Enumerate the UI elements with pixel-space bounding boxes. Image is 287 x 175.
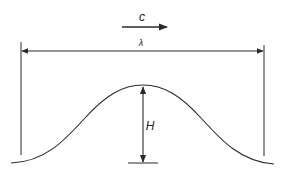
wave-diagram: c λ H: [0, 0, 287, 175]
wavelength-label: λ: [138, 38, 143, 48]
celerity-label: c: [139, 10, 145, 24]
height-label: H: [146, 119, 155, 133]
